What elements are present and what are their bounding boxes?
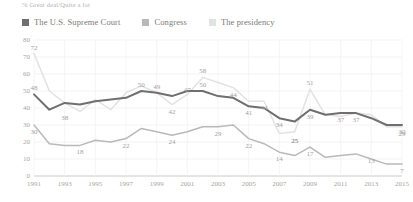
y-axis-tick-50: 50 [0,87,30,95]
x-axis-tick-2015: 2015 [395,180,409,188]
x-axis-tick-2001: 2001 [180,180,194,188]
data-label-2015-7: 7 [400,167,404,175]
x-axis-tick-2013: 2013 [364,180,378,188]
data-label-2009-39: 39 [307,113,315,121]
data-label-1994-18: 18 [77,148,85,156]
plot-area: 4850494750444134253937373030182224292214… [34,40,402,176]
y-axis-tick-40: 40 [0,104,30,112]
data-label-2009-17: 17 [307,150,315,158]
legend-label-presidency: The presidency [221,17,275,27]
x-axis-tick-1997: 1997 [119,180,133,188]
data-label-2000-24: 24 [169,138,177,146]
legend-label-congress: Congress [154,17,186,27]
data-label-2011-37: 37 [337,116,345,124]
data-label-2004-44: 44 [230,91,238,99]
y-axis-tick-70: 70 [0,53,30,61]
y-axis-tick-10: 10 [0,155,30,163]
data-label-2002-58: 58 [199,67,207,75]
x-axis-tick-1999: 1999 [150,180,164,188]
data-label-1991-30: 30 [31,128,39,136]
x-axis-tick-1995: 1995 [88,180,102,188]
y-axis-tick-60: 60 [0,70,30,78]
legend-item-congress[interactable]: Congress [142,17,186,27]
data-label-2013-13: 13 [368,157,376,165]
data-label-1997-22: 22 [123,142,131,150]
x-axis-tick-2003: 2003 [211,180,225,188]
x-axis-tick-2011: 2011 [334,180,348,188]
legend-swatch-supreme-court [22,19,29,26]
legend-label-supreme-court: The U.S. Supreme Court [34,17,120,27]
x-axis-tick-1993: 1993 [58,180,72,188]
y-axis-labels: 01020304050607080 [0,40,30,176]
data-label-2015-29: 29 [399,130,407,138]
chart-container: % Great deal/Quite a lot The U.S. Suprem… [0,0,413,202]
data-label-2000-42: 42 [169,108,177,116]
data-label-2005-22: 22 [245,142,253,150]
x-axis-tick-2009: 2009 [303,180,317,188]
legend-item-presidency[interactable]: The presidency [209,17,275,27]
data-label-2012-37: 37 [353,116,361,124]
data-label-2005-41: 41 [245,109,253,117]
data-label-1998-50: 50 [138,81,146,89]
data-label-1991-48: 48 [31,84,39,92]
data-label-2002-50: 50 [199,81,207,89]
data-label-2007-14: 14 [276,155,284,163]
data-label-2008-25: 25 [291,137,299,145]
data-label-2009-51: 51 [307,79,315,87]
y-axis-tick-20: 20 [0,138,30,146]
y-axis-tick-0: 0 [0,172,30,180]
x-axis-labels: 1991199319951997199920012003200520072009… [34,180,402,194]
x-axis-tick-1991: 1991 [27,180,41,188]
chart-subtitle: % Great deal/Quite a lot [22,1,90,8]
legend-swatch-presidency [209,19,216,26]
data-label-2001-47: 47 [184,86,192,94]
data-label-2003-29: 29 [215,130,223,138]
line-chart-svg: 4850494750444134253937373030182224292214… [34,40,402,176]
data-label-1993-38: 38 [61,114,69,122]
legend-swatch-congress [142,19,149,26]
data-label-2006-44: 44 [261,104,269,112]
y-axis-tick-30: 30 [0,121,30,129]
y-axis-tick-80: 80 [0,36,30,44]
chart-legend: The U.S. Supreme Court Congress The pres… [22,17,275,27]
data-label-1991-72: 72 [31,44,39,52]
x-axis-tick-2005: 2005 [242,180,256,188]
legend-item-supreme-court[interactable]: The U.S. Supreme Court [22,17,120,27]
data-label-2007-34: 34 [276,121,284,129]
data-label-1999-49: 49 [153,83,161,91]
x-axis-tick-2007: 2007 [272,180,286,188]
